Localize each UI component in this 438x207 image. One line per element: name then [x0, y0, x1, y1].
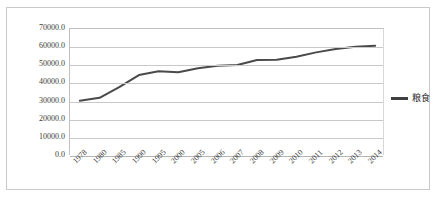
y-axis-tick-label: 10000.0 [9, 133, 65, 141]
y-axis-tick-label: 50000.0 [9, 60, 65, 68]
x-axis: 1978198019851990199520002005200620072008… [69, 156, 384, 190]
cut-off-caption [6, 0, 406, 6]
gridline [70, 138, 383, 139]
gridline [70, 47, 383, 48]
y-axis-tick-label: 70000.0 [9, 24, 65, 32]
y-axis-tick-label: 60000.0 [9, 42, 65, 50]
chart-container: 70000.060000.050000.040000.030000.020000… [0, 0, 438, 207]
y-axis-tick-label: 40000.0 [9, 78, 65, 86]
y-axis: 70000.060000.050000.040000.030000.020000… [7, 28, 65, 155]
chart-frame: 70000.060000.050000.040000.030000.020000… [6, 7, 430, 190]
plot-area [69, 28, 384, 155]
y-axis-tick-label: 0.0 [9, 151, 65, 159]
gridline [70, 120, 383, 121]
gridline [70, 83, 383, 84]
gridline [70, 102, 383, 103]
chart-legend: 粮食 [391, 93, 430, 103]
legend-line-swatch [391, 97, 408, 100]
y-axis-tick-label: 30000.0 [9, 97, 65, 105]
gridline [70, 65, 383, 66]
y-axis-tick-label: 20000.0 [9, 115, 65, 123]
legend-label-grain: 粮食 [412, 93, 430, 103]
